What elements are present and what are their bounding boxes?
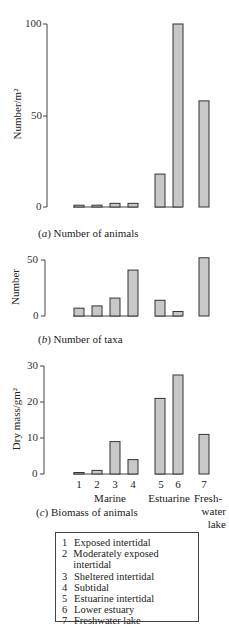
legend-item: 1Exposed intertidal bbox=[62, 537, 192, 548]
bar bbox=[128, 460, 138, 474]
xtick-3: 3 bbox=[108, 478, 122, 490]
legend-box: 1Exposed intertidal 2Moderately exposed … bbox=[55, 532, 199, 622]
bar bbox=[173, 24, 183, 207]
bar bbox=[92, 306, 102, 316]
bar bbox=[74, 308, 84, 316]
caption-a: (a) Number of animals bbox=[38, 227, 139, 239]
bar bbox=[110, 442, 120, 474]
bar bbox=[199, 258, 209, 316]
legend-item: 5Estuarine intertidal bbox=[62, 593, 192, 604]
ylabel-c: Dry mass/gm² bbox=[10, 381, 22, 457]
bar bbox=[199, 101, 209, 207]
legend-item: 7Freshwater lake bbox=[62, 615, 192, 626]
bar bbox=[110, 298, 120, 316]
xtick-6: 6 bbox=[171, 478, 185, 490]
ylabel-b: Number bbox=[9, 262, 21, 312]
ylabel-a: Number/m² bbox=[11, 82, 23, 146]
xtick-4: 4 bbox=[126, 478, 140, 490]
caption-b: (b) Number of taxa bbox=[38, 333, 123, 345]
legend-item: 6Lower estuary bbox=[62, 604, 192, 615]
legend-item: 3Sheltered intertidal bbox=[62, 571, 192, 582]
caption-c: (c) Biomass of animals bbox=[36, 506, 138, 518]
group-estuarine: Estuarine bbox=[148, 492, 190, 505]
xtick-2: 2 bbox=[90, 478, 104, 490]
bar bbox=[74, 205, 84, 207]
group-freshwater: Fresh-waterlake bbox=[190, 492, 226, 531]
bar bbox=[74, 473, 84, 475]
ytick-c-0: 0 bbox=[32, 467, 38, 479]
bar bbox=[128, 270, 138, 316]
xtick-7: 7 bbox=[197, 478, 211, 490]
bar bbox=[173, 312, 183, 316]
bar bbox=[155, 174, 165, 207]
bar bbox=[199, 434, 209, 474]
ytick-c-30: 30 bbox=[27, 359, 38, 371]
bar bbox=[173, 375, 183, 474]
bar bbox=[155, 398, 165, 474]
ytick-a-100: 100 bbox=[25, 17, 42, 29]
bar bbox=[92, 205, 102, 207]
ytick-a-0: 0 bbox=[36, 200, 42, 212]
ytick-b-50: 50 bbox=[27, 253, 38, 265]
xtick-1: 1 bbox=[72, 478, 86, 490]
legend-item: 4Subtidal bbox=[62, 582, 192, 593]
xtick-5: 5 bbox=[154, 478, 168, 490]
ytick-b-0: 0 bbox=[33, 309, 39, 321]
bar bbox=[128, 203, 138, 207]
ytick-a-50: 50 bbox=[31, 109, 42, 121]
bar bbox=[110, 203, 120, 207]
legend-item: 2Moderately exposed intertidal bbox=[62, 548, 192, 570]
bar bbox=[155, 300, 165, 316]
group-marine: Marine bbox=[88, 492, 132, 505]
ytick-c-20: 20 bbox=[27, 395, 38, 407]
ytick-c-10: 10 bbox=[27, 431, 38, 443]
bar bbox=[92, 470, 102, 474]
